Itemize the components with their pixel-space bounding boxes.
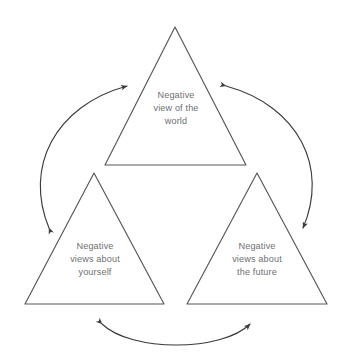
diagram-canvas <box>0 0 350 362</box>
triangle-shape-world <box>105 27 246 165</box>
triangle-shape-self <box>25 173 164 304</box>
connector-arrow-self-future <box>102 324 250 345</box>
triangle-shape-future <box>187 173 327 304</box>
cognitive-triad-diagram: Negative view of the world Negative view… <box>0 0 350 362</box>
